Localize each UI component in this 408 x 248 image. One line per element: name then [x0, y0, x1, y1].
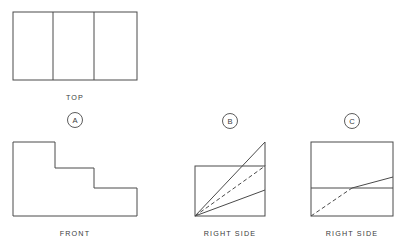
choice-c-caption: RIGHT SIDE [326, 229, 379, 238]
choice-b-view [195, 114, 265, 217]
technical-drawing-sheet [0, 0, 408, 248]
choice-b-caption: RIGHT SIDE [204, 229, 257, 238]
front-view-label: FRONT [60, 229, 91, 238]
choice-b-triangle-hypotenuse [195, 142, 265, 216]
top-view-outline [13, 12, 137, 80]
top-view [13, 12, 137, 80]
choice-c-outline [311, 142, 393, 216]
choice-c-letter: C [349, 117, 354, 126]
front-view-outline [13, 142, 137, 216]
choice-b-letter: B [227, 117, 232, 126]
front-view [13, 142, 137, 216]
choice-a-letter: A [72, 116, 77, 125]
top-view-label: TOP [66, 93, 84, 102]
choice-c-upper-diagonal [352, 177, 393, 188]
choice-b-lower-diagonal [195, 190, 265, 216]
choice-c-view [311, 114, 393, 217]
choice-b-hidden-diagonal [195, 166, 265, 216]
choice-c-hidden-diagonal [311, 188, 352, 216]
